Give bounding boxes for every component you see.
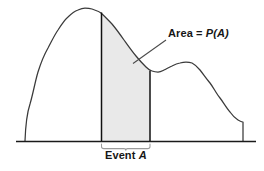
shaded-event-area <box>101 13 150 141</box>
probability-density-figure: Area = P(A) Event A <box>0 0 264 171</box>
event-label-prefix: Event <box>105 149 135 161</box>
area-label-value: P(A) <box>206 27 229 39</box>
event-label-value: A <box>139 149 147 161</box>
density-curve-chart <box>0 0 264 171</box>
area-probability-label: Area = P(A) <box>168 27 229 40</box>
area-label-prefix: Area = <box>168 27 203 39</box>
event-a-label: Event A <box>105 149 147 162</box>
area-label-leader-line <box>133 40 166 64</box>
